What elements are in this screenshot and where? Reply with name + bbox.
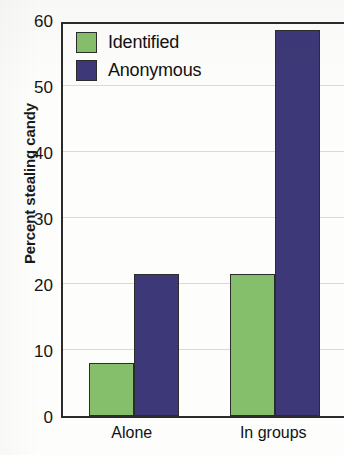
bar-anonymous-alone (134, 274, 179, 416)
y-tick-label: 20 (8, 277, 53, 294)
y-tick-label: 50 (8, 79, 53, 96)
legend-item-identified: Identified (76, 30, 201, 54)
legend: Identified Anonymous (76, 30, 201, 86)
legend-swatch-anonymous (76, 60, 97, 81)
y-tick-label: 60 (8, 13, 53, 30)
bar-anonymous-in-groups (275, 30, 320, 416)
bar-chart: Percent stealing candy 0102030405060 Alo… (0, 0, 344, 455)
legend-swatch-identified (76, 32, 97, 53)
bar-identified-in-groups (230, 274, 275, 416)
legend-label-identified: Identified (108, 32, 179, 53)
y-tick-label: 0 (8, 409, 53, 426)
legend-label-anonymous: Anonymous (108, 60, 201, 81)
y-tick-label: 30 (8, 211, 53, 228)
x-tick-label: In groups (203, 424, 343, 442)
x-tick-label: Alone (62, 424, 202, 442)
bar-identified-alone (89, 363, 134, 416)
y-tick-label: 10 (8, 343, 53, 360)
y-tick-label: 40 (8, 145, 53, 162)
legend-item-anonymous: Anonymous (76, 58, 201, 82)
